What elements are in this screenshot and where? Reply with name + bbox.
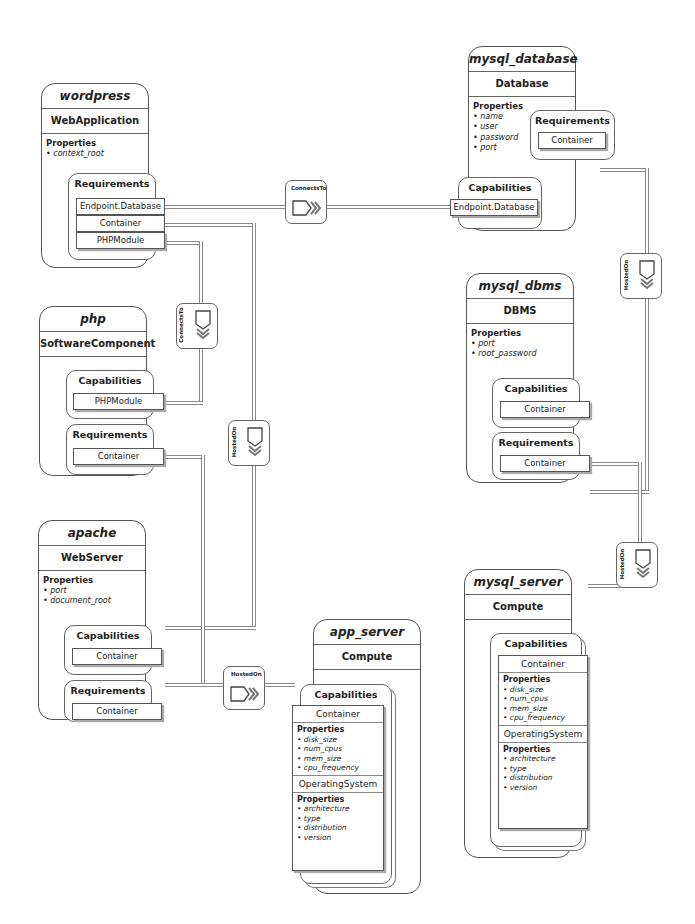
properties-heading: Properties	[471, 328, 537, 339]
arrow-right-icon	[292, 199, 322, 217]
relationship-label: ConnectsTo	[178, 307, 184, 342]
group-title: Capabilities	[65, 626, 151, 646]
connector-line	[165, 223, 255, 227]
property-item: num_cpus	[304, 744, 342, 753]
group-title: Requirements	[531, 111, 614, 131]
arrow-down-icon	[246, 427, 264, 457]
arrow-right-icon	[230, 685, 260, 703]
property-item: type	[510, 764, 527, 773]
property-item: distribution	[510, 773, 553, 782]
properties-heading: Properties	[43, 575, 111, 586]
property-item: cpu_frequency	[510, 713, 565, 722]
relationship-connectsto-database[interactable]: ConnectsTo	[285, 180, 327, 224]
node-type: WebServer	[39, 546, 145, 571]
property-item: distribution	[304, 823, 347, 832]
property-item: name	[480, 112, 503, 121]
requirement-container[interactable]: Container	[538, 132, 606, 149]
node-name: apache	[39, 521, 145, 546]
capability-operatingsystem[interactable]: OperatingSystem	[499, 725, 587, 743]
capability-container-block[interactable]: Container Properties • disk_size • num_c…	[292, 705, 384, 871]
property-item: type	[304, 814, 321, 823]
node-name: wordpress	[42, 84, 148, 109]
connector-line	[165, 455, 205, 459]
node-name: mysql_server	[465, 570, 571, 595]
property-item: mem_size	[304, 754, 342, 763]
requirement-endpoint-database[interactable]: Endpoint.Database	[76, 198, 165, 215]
property-item: num_cpus	[510, 694, 548, 703]
node-name: mysql_database	[469, 47, 575, 72]
node-name: mysql_dbms	[467, 274, 573, 299]
property-item: disk_size	[510, 685, 543, 694]
node-type: WebApplication	[42, 109, 148, 134]
property-item: version	[304, 833, 331, 842]
property-item: architecture	[304, 804, 350, 813]
property-item: password	[480, 133, 518, 142]
node-type: SoftwareComponent	[40, 332, 146, 357]
connector-line	[201, 455, 205, 686]
capability-container[interactable]: Container	[500, 401, 590, 418]
connector-line	[165, 241, 202, 245]
property-item: cpu_frequency	[304, 763, 359, 772]
relationship-hostedon-mysql-server[interactable]: HostedOn	[616, 542, 658, 588]
node-type: Compute	[314, 645, 420, 670]
group-title: Capabilities	[301, 685, 391, 705]
relationship-hostedon-mysql-dbms[interactable]: HostedOn	[620, 253, 662, 299]
property-item: port	[478, 339, 494, 348]
property-item: port	[480, 143, 496, 152]
capability-container[interactable]: Container	[499, 656, 587, 673]
property-item: root_password	[478, 349, 536, 358]
relationship-label: HostedOn	[619, 549, 625, 580]
relationship-label: HostedOn	[623, 260, 629, 291]
property-item: user	[480, 122, 497, 131]
property-item: port	[50, 586, 66, 595]
requirement-container[interactable]: Container	[72, 703, 162, 720]
requirement-container[interactable]: Container	[500, 455, 590, 472]
property-item: version	[510, 783, 537, 792]
group-title: Capabilities	[459, 178, 541, 198]
capability-container[interactable]: Container	[72, 648, 162, 665]
relationship-label: HostedOn	[231, 671, 262, 677]
requirement-phpmodule[interactable]: PHPModule	[76, 232, 165, 249]
node-type: DBMS	[467, 299, 573, 324]
properties-heading: Properties	[46, 138, 104, 149]
property-item: architecture	[510, 754, 556, 763]
relationship-label: ConnectsTo	[291, 185, 326, 191]
group-title: Requirements	[493, 433, 579, 453]
connector-line	[165, 626, 256, 630]
relationship-connectsto-php[interactable]: ConnectsTo	[176, 303, 218, 349]
connector-line	[645, 168, 649, 493]
property-item: document_root	[50, 596, 111, 605]
relationship-hostedon-app-server[interactable]: HostedOn	[223, 666, 265, 710]
relationship-label: HostedOn	[231, 427, 237, 458]
property-item: mem_size	[510, 704, 548, 713]
group-title: Capabilities	[67, 371, 153, 391]
node-name: app_server	[314, 620, 420, 645]
arrow-down-icon	[638, 260, 656, 290]
connector-line	[600, 168, 648, 172]
connector-line	[590, 462, 642, 466]
relationship-hostedon-apache[interactable]: HostedOn	[228, 420, 270, 466]
property-item: context_root	[53, 149, 104, 158]
group-title: Requirements	[67, 425, 153, 445]
connector-line	[165, 401, 203, 405]
group-title: Requirements	[65, 681, 151, 701]
capability-container-block[interactable]: Container Properties • disk_size • num_c…	[498, 655, 588, 829]
group-title: Capabilities	[493, 379, 579, 399]
requirement-container[interactable]: Container	[73, 448, 164, 465]
requirement-container[interactable]: Container	[76, 215, 165, 232]
node-name: php	[40, 307, 146, 332]
node-type: Compute	[465, 595, 571, 620]
node-type: Database	[469, 72, 575, 97]
group-title: Capabilities	[491, 634, 581, 654]
capability-endpoint-database[interactable]: Endpoint.Database	[450, 199, 538, 216]
arrow-down-icon	[194, 310, 212, 340]
group-title: Requirements	[69, 174, 155, 194]
arrow-down-icon	[634, 549, 652, 579]
properties-heading: Properties	[473, 101, 523, 112]
capability-operatingsystem[interactable]: OperatingSystem	[293, 775, 383, 793]
capability-container[interactable]: Container	[293, 706, 383, 723]
capability-phpmodule[interactable]: PHPModule	[73, 393, 164, 410]
property-item: disk_size	[304, 735, 337, 744]
